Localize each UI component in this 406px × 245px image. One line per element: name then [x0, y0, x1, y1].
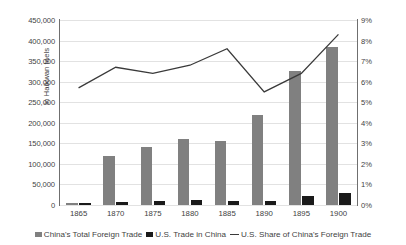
y-axis-right-line: [357, 19, 358, 206]
y-axis-tick-label: 400,000: [28, 36, 55, 45]
us-share-line: [79, 34, 339, 92]
y-axis-tick-label: 100,000: [28, 159, 55, 168]
y-axis-tick-label: 200,000: [28, 118, 55, 127]
y-axis-tick-label: 350,000: [28, 57, 55, 66]
legend-item-1[interactable]: U.S. Trade in China: [146, 230, 226, 239]
y-axis-tick-label: 450,000: [28, 16, 55, 25]
y-axis-tick-label: 0: [51, 201, 55, 210]
x-axis-tick-label: 1875: [144, 209, 161, 218]
line-series-layer: [60, 20, 357, 205]
legend-item-2[interactable]: U.S. Share of China's Foreign Trade: [230, 230, 371, 239]
y-axis-tick-label: 300,000: [28, 77, 55, 86]
y2-axis-tick-label: 4%: [361, 118, 372, 127]
y-axis-tick-label: 50,000: [32, 180, 55, 189]
y-axis-left-labels: 050,000100,000150,000200,000250,000300,0…: [0, 0, 55, 245]
legend-swatch-icon: [35, 232, 42, 237]
y-axis-tick-label: 150,000: [28, 139, 55, 148]
legend-item-label: U.S. Share of China's Foreign Trade: [241, 230, 371, 239]
chart-container: In Haikwan taels 050,000100,000150,00020…: [0, 0, 406, 245]
y2-axis-tick-label: 9%: [361, 16, 372, 25]
chart-legend: China's Total Foreign TradeU.S. Trade in…: [0, 230, 406, 239]
y2-axis-tick-label: 3%: [361, 139, 372, 148]
y2-axis-tick-label: 1%: [361, 180, 372, 189]
x-axis-tick-label: 1895: [293, 209, 310, 218]
y2-axis-tick-label: 0%: [361, 201, 372, 210]
y-axis-tick-label: 250,000: [28, 98, 55, 107]
x-axis-tick-label: 1900: [330, 209, 347, 218]
y2-axis-tick-label: 5%: [361, 98, 372, 107]
y2-axis-tick-label: 2%: [361, 159, 372, 168]
y2-axis-tick-label: 7%: [361, 57, 372, 66]
legend-swatch-icon: [146, 232, 153, 237]
gridline: [60, 205, 357, 206]
plot-area: [60, 20, 357, 205]
y2-axis-tick-label: 6%: [361, 77, 372, 86]
x-axis-tick-label: 1870: [107, 209, 124, 218]
legend-item-0[interactable]: China's Total Foreign Trade: [35, 230, 143, 239]
x-axis-tick-label: 1880: [181, 209, 198, 218]
legend-swatch-icon: [230, 234, 239, 235]
y2-axis-tick-label: 8%: [361, 36, 372, 45]
x-axis-tick-label: 1890: [256, 209, 273, 218]
y-axis-right-labels: 0%1%2%3%4%5%6%7%8%9%: [361, 0, 405, 245]
x-axis-tick-label: 1885: [218, 209, 235, 218]
legend-item-label: U.S. Trade in China: [155, 230, 226, 239]
x-axis-tick-label: 1865: [70, 209, 87, 218]
legend-item-label: China's Total Foreign Trade: [44, 230, 143, 239]
